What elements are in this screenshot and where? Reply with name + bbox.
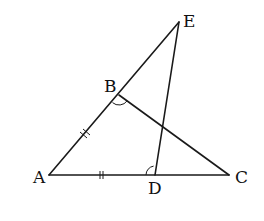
point-label-E: E [183, 11, 195, 31]
point-label-C: C [235, 167, 248, 187]
point-label-D: D [148, 178, 162, 198]
point-label-B: B [104, 76, 117, 96]
segment-BC [119, 95, 229, 175]
angle-mark-B [113, 101, 128, 105]
segment-AE [49, 22, 179, 175]
point-label-A: A [32, 167, 46, 187]
geometry-diagram: A B C D E [0, 0, 264, 221]
angle-mark-D [146, 166, 154, 175]
